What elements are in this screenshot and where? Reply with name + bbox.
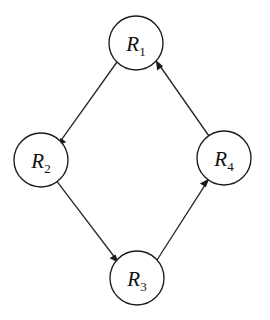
node-r2[interactable]: R2	[14, 133, 68, 187]
node-r3[interactable]: R3	[110, 251, 164, 305]
edge-r1-to-r2	[57, 62, 117, 146]
edge-line-r2-r3	[57, 182, 116, 259]
node-label-r4-subscript: 4	[227, 159, 234, 174]
node-label-r2-subscript: 2	[44, 161, 51, 176]
node-label-r1-base: R	[125, 32, 139, 56]
directed-cycle-graph: R1 R2 R3 R4	[0, 0, 270, 320]
edge-r2-to-r3	[57, 182, 119, 263]
edge-r4-to-r1	[156, 60, 209, 136]
diagram-canvas: R1 R2 R3 R4	[0, 0, 270, 320]
node-label-r3-subscript: 3	[140, 279, 147, 294]
node-label-r3-base: R	[126, 267, 140, 291]
edge-line-r3-r4	[157, 183, 207, 260]
node-r1[interactable]: R1	[109, 16, 163, 70]
edge-line-r4-r1	[159, 64, 209, 136]
node-label-r1-subscript: 1	[139, 44, 146, 59]
node-label-r2-base: R	[30, 149, 44, 173]
edge-r3-to-r4	[157, 179, 209, 261]
edge-line-r1-r2	[60, 62, 117, 142]
node-label-r4-base: R	[213, 147, 227, 171]
node-r4[interactable]: R4	[197, 131, 251, 185]
